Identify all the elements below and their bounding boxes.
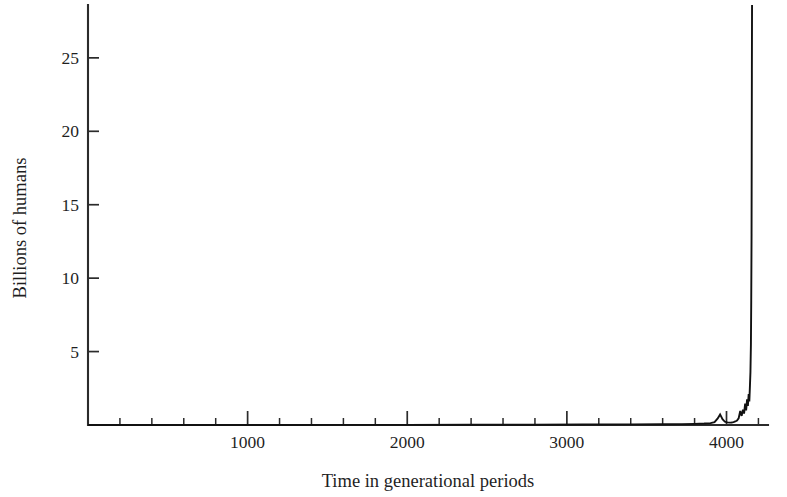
y-tick-label-25: 25	[62, 48, 80, 68]
y-tick-label-5: 5	[70, 342, 79, 362]
x-axis-title: Time in generational periods	[322, 471, 535, 491]
y-tick-label-20: 20	[62, 121, 80, 141]
x-tick-label-3000: 3000	[549, 432, 584, 452]
y-axis-title: Billions of humans	[10, 158, 30, 299]
x-tick-label-4000: 4000	[709, 432, 744, 452]
x-tick-label-1000: 1000	[230, 432, 265, 452]
population-line-chart: 510152025 1000200030004000 Time in gener…	[0, 0, 787, 497]
y-tick-label-15: 15	[62, 195, 80, 215]
chart-figure: 510152025 1000200030004000 Time in gener…	[0, 0, 787, 497]
y-tick-label-10: 10	[62, 268, 80, 288]
chart-background	[0, 0, 787, 497]
x-tick-label-2000: 2000	[390, 432, 425, 452]
